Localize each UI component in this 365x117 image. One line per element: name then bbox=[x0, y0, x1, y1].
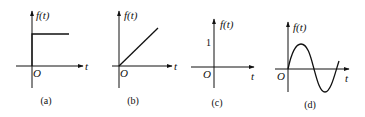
x-axis-label: t bbox=[174, 60, 178, 72]
panel-a: f(t) t O (a) bbox=[16, 9, 89, 107]
sine-signal-curve bbox=[288, 44, 339, 92]
x-axis-label: t bbox=[345, 72, 349, 84]
panel-c: f(t) 1 t O (c) bbox=[191, 18, 255, 109]
step-signal-curve bbox=[32, 34, 69, 66]
tick-label-one: 1 bbox=[206, 37, 211, 48]
panel-d: f(t) t O (d) bbox=[275, 21, 349, 111]
origin-label: O bbox=[277, 70, 285, 82]
origin-label: O bbox=[120, 67, 128, 79]
y-axis-label: f(t) bbox=[124, 9, 138, 22]
ramp-signal-curve bbox=[119, 28, 158, 66]
y-axis-label: f(t) bbox=[293, 21, 307, 34]
signal-figure: f(t) t O (a) f(t) t O (b) f(t) 1 t O (c)… bbox=[0, 0, 365, 117]
panel-caption: (c) bbox=[211, 97, 222, 109]
panel-caption: (a) bbox=[40, 95, 51, 107]
panel-b: f(t) t O (b) bbox=[112, 9, 178, 107]
y-axis-label: f(t) bbox=[36, 9, 50, 22]
y-axis-label: f(t) bbox=[220, 18, 234, 31]
x-axis-label: t bbox=[85, 60, 89, 72]
x-axis-label: t bbox=[251, 70, 255, 82]
panel-caption: (d) bbox=[304, 99, 316, 111]
panel-caption: (b) bbox=[127, 95, 139, 107]
origin-label: O bbox=[33, 67, 41, 79]
origin-label: O bbox=[203, 68, 211, 80]
